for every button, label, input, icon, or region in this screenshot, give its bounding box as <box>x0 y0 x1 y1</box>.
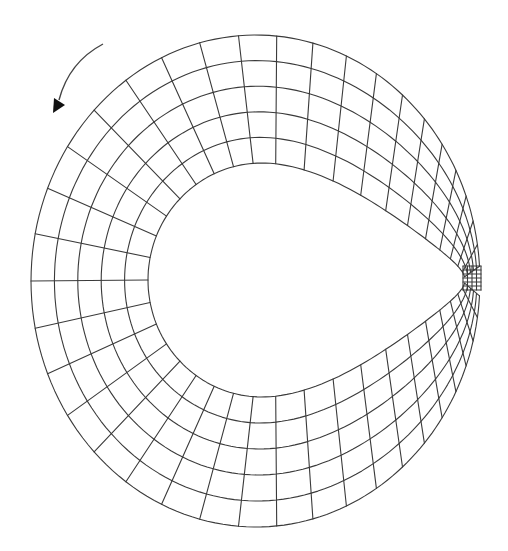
mesh-ring-line <box>101 112 470 449</box>
mesh-spoke-line <box>200 393 234 519</box>
mesh-spoke-line <box>386 95 403 211</box>
mesh-spoke-line <box>276 396 277 526</box>
mesh-spoke-line <box>440 310 456 392</box>
mesh-spoke-line <box>162 386 215 504</box>
mesh-spoke-line <box>239 36 254 164</box>
mesh-ring-line <box>148 163 465 397</box>
mesh-spoke-line <box>304 43 313 170</box>
mesh-spoke-line <box>276 36 277 164</box>
mesh-canvas <box>0 0 508 551</box>
mesh-spoke-line <box>35 234 150 258</box>
mesh-ring-line <box>125 137 468 423</box>
cusp-refined-block <box>463 266 481 290</box>
mesh-grid <box>31 35 480 527</box>
mesh-spoke-line <box>94 110 180 199</box>
mesh-spoke-line <box>200 43 234 167</box>
mesh-ring-line <box>31 35 480 527</box>
mesh-spoke-line <box>333 379 346 506</box>
mesh-spoke-line <box>48 188 157 236</box>
mesh-diagram <box>0 0 508 551</box>
mesh-spoke-line <box>126 376 196 482</box>
mesh-spoke-line <box>126 80 196 184</box>
mesh-spoke-line <box>239 397 254 527</box>
mesh-spoke-line <box>333 56 346 181</box>
mesh-spoke-line <box>35 303 150 329</box>
mesh-spoke-line <box>31 280 148 281</box>
mesh-spoke-line <box>162 58 215 174</box>
arrow-arc <box>59 44 103 100</box>
mesh-spoke-line <box>386 349 403 467</box>
arrowhead-icon <box>53 98 65 113</box>
mesh-spoke-line <box>458 294 473 341</box>
rotation-arrow-icon <box>53 44 103 113</box>
mesh-spoke-line <box>94 361 180 452</box>
mesh-spoke-line <box>304 390 313 519</box>
mesh-spoke-line <box>458 221 473 266</box>
